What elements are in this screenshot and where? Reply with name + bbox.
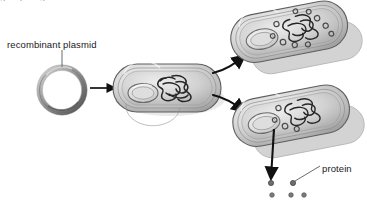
- bacterium-center: [113, 61, 225, 126]
- protein-dot: [289, 193, 294, 198]
- label-protein: protein: [322, 163, 352, 174]
- protein-dot: [268, 180, 273, 185]
- recombinant-plasmid-ring: [37, 65, 88, 116]
- diagram-canvas: [0, 0, 367, 208]
- bacterium-lower-right: [228, 76, 367, 161]
- protein-dot: [270, 193, 275, 198]
- protein-dot: [302, 193, 307, 198]
- plasmid-inside-center-cell: [128, 84, 158, 103]
- protein-dots: [268, 180, 306, 197]
- arrow-to-upper-right-cell: [213, 56, 244, 73]
- figure-recombinant-plasmid-diagram: g p g: [0, 0, 367, 208]
- label-recombinant-plasmid: recombinant plasmid: [7, 39, 97, 50]
- protein-dot: [290, 180, 295, 185]
- leader-line-protein: [295, 166, 320, 181]
- bacterium-upper-right: [226, 0, 366, 77]
